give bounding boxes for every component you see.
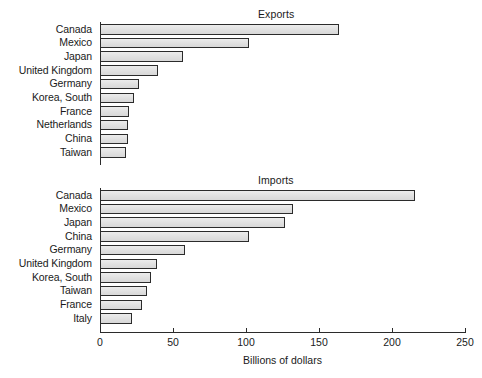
bar-imports-korea-south [100, 272, 151, 283]
bar-imports-taiwan [100, 286, 147, 297]
category-label: Japan [64, 217, 92, 228]
x-axis-tick-label: 100 [237, 336, 255, 348]
category-label: China [65, 231, 92, 242]
bar-imports-mexico [100, 204, 293, 215]
bar-imports-china [100, 231, 249, 242]
x-axis-title: Billions of dollars [0, 354, 482, 366]
x-axis-tick-label: 250 [456, 336, 474, 348]
category-label: Italy [73, 313, 92, 324]
bar-chart-figure: ExportsCanadaMexicoJapanUnited KingdomGe… [0, 0, 482, 378]
category-label: Canada [56, 190, 92, 201]
category-label: United Kingdom [19, 258, 92, 269]
x-axis-tick-label: 50 [167, 336, 179, 348]
bar-imports-italy [100, 313, 132, 324]
bar-imports-germany [100, 245, 185, 256]
bar-imports-france [100, 300, 142, 311]
bar-imports-canada [100, 190, 415, 201]
x-axis-tick [173, 328, 174, 333]
x-axis-tick-label: 0 [97, 336, 103, 348]
category-label: Mexico [59, 203, 92, 214]
panel-title-imports: Imports [258, 174, 294, 186]
x-axis-tick-label: 150 [310, 336, 328, 348]
x-axis-tick [100, 328, 101, 333]
x-axis-tick [465, 328, 466, 333]
bar-imports-japan [100, 217, 285, 228]
x-axis-tick [319, 328, 320, 333]
x-axis-tick [246, 328, 247, 333]
category-label: Korea, South [32, 272, 92, 283]
x-axis-tick-label: 200 [383, 336, 401, 348]
category-label: France [60, 299, 92, 310]
bar-imports-united-kingdom [100, 259, 157, 270]
category-label: Germany [50, 244, 92, 255]
x-axis-tick [392, 328, 393, 333]
category-label: Taiwan [60, 285, 92, 296]
x-axis-line [100, 332, 466, 333]
panel-imports: ImportsCanadaMexicoJapanChinaGermanyUnit… [0, 0, 482, 378]
